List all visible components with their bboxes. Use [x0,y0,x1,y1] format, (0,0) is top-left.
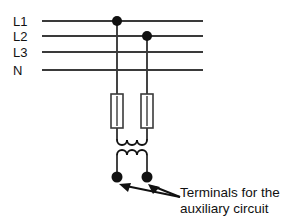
junction-dot-l1 [112,16,122,26]
transformer-primary-winding [117,140,147,145]
annotation-line-2: auxiliary circuit [180,201,269,216]
bus-label-l2: L2 [13,29,27,44]
annotation-line-1: Terminals for the [180,185,280,200]
bus-label-l3: L3 [13,45,27,60]
arrow-to-left-terminal-head [119,183,131,192]
transformer-secondary-winding [117,150,147,155]
terminal-right [142,172,153,183]
circuit-diagram-canvas: L1 L2 L3 N [0,0,294,224]
circuit-diagram: L1 L2 L3 N [0,0,294,224]
junction-dot-l2 [142,31,152,41]
bus-label-l1: L1 [13,14,27,29]
terminal-left [112,172,123,183]
bus-label-n: N [13,63,22,78]
